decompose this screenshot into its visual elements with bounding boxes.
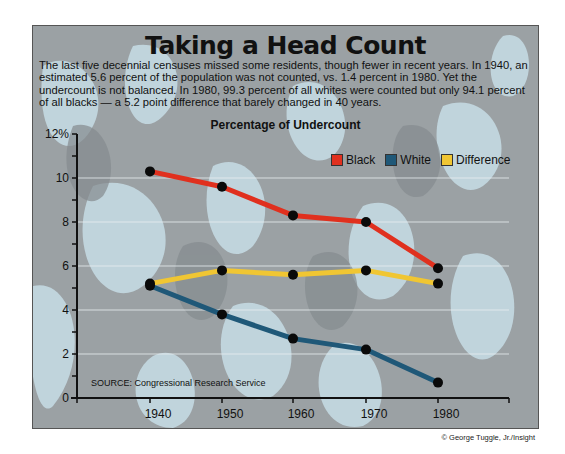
y-tick-label: 2: [62, 347, 69, 361]
y-tick-label: 4: [62, 303, 69, 317]
infographic-panel: Taking a Head Count The last five decenn…: [32, 25, 539, 429]
y-tick-label: 6: [62, 259, 69, 273]
y-tick-label: 10: [56, 171, 70, 185]
data-point-difference: [288, 270, 298, 280]
data-point-white: [288, 334, 298, 344]
x-tick-label: 1940: [145, 407, 172, 421]
data-point-black: [288, 210, 298, 220]
source-note: SOURCE: Congressional Research Service: [91, 378, 266, 388]
data-point-black: [433, 263, 443, 273]
y-tick-label: 0: [62, 391, 69, 405]
data-point-difference: [433, 279, 443, 289]
y-tick-label: 8: [62, 215, 69, 229]
data-point-white: [217, 309, 227, 319]
x-tick-label: 1960: [288, 407, 315, 421]
data-point-white: [433, 378, 443, 388]
x-tick-label: 1980: [433, 407, 460, 421]
photo-credit: © George Tuggle, Jr./Insight: [442, 433, 536, 442]
data-point-black: [145, 166, 155, 176]
x-tick-label: 1970: [361, 407, 388, 421]
data-point-black: [217, 182, 227, 192]
y-tick-label: 12%: [45, 127, 69, 141]
data-point-black: [361, 217, 371, 227]
data-point-white: [145, 281, 155, 291]
data-point-white: [361, 345, 371, 355]
data-point-difference: [217, 265, 227, 275]
data-point-difference: [361, 265, 371, 275]
line-chart: 024681012%19401950196019701980: [33, 26, 538, 428]
x-tick-label: 1950: [217, 407, 244, 421]
